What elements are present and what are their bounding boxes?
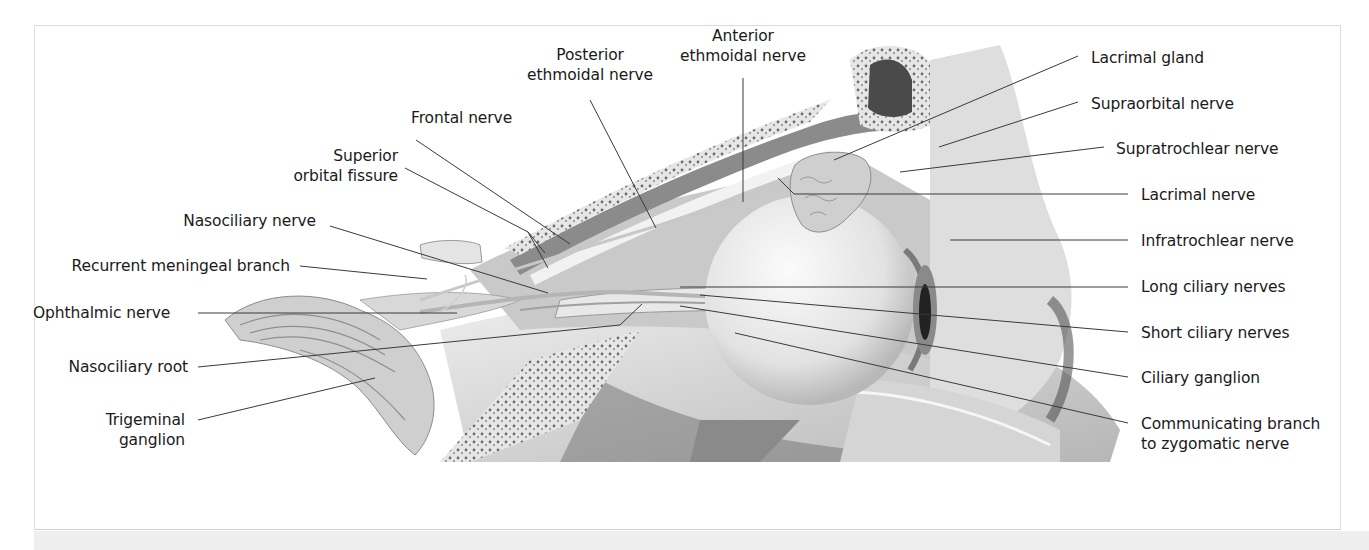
label-trigeminal-ganglion: Trigeminalganglion — [60, 410, 185, 450]
label-recurrent-meningeal-branch: Recurrent meningeal branch — [50, 256, 290, 276]
label-frontal-nerve: Frontal nerve — [411, 108, 512, 128]
label-ophthalmic-nerve: Ophthalmic nerve — [33, 303, 170, 323]
label-posterior-ethmoidal-nerve: Posteriorethmoidal nerve — [510, 45, 670, 85]
label-superior-orbital-fissure: Superiororbital fissure — [260, 146, 398, 186]
label-long-ciliary-nerves: Long ciliary nerves — [1141, 277, 1285, 297]
label-nasociliary-root: Nasociliary root — [40, 357, 188, 377]
label-supraorbital-nerve: Supraorbital nerve — [1091, 94, 1234, 114]
label-anterior-ethmoidal-nerve: Anteriorethmoidal nerve — [668, 26, 818, 66]
label-lacrimal-nerve: Lacrimal nerve — [1141, 185, 1255, 205]
label-supratrochlear-nerve: Supratrochlear nerve — [1116, 139, 1278, 159]
label-communicating-branch: Communicating branchto zygomatic nerve — [1141, 414, 1320, 454]
label-infratrochlear-nerve: Infratrochlear nerve — [1141, 231, 1294, 251]
label-nasociliary-nerve: Nasociliary nerve — [140, 211, 316, 231]
label-short-ciliary-nerves: Short ciliary nerves — [1141, 323, 1289, 343]
label-lacrimal-gland: Lacrimal gland — [1091, 48, 1204, 68]
label-ciliary-ganglion: Ciliary ganglion — [1141, 368, 1260, 388]
caption-bar — [34, 531, 1369, 550]
